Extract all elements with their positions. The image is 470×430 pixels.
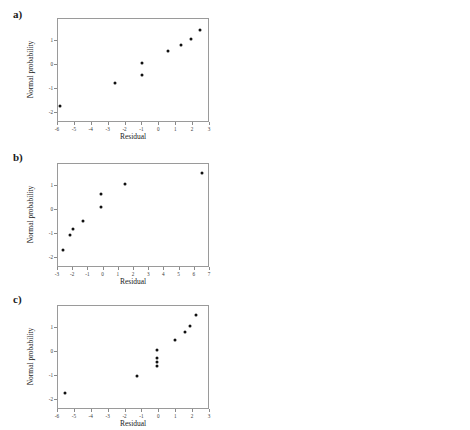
x-tick-label: -1 [85, 271, 89, 277]
x-tick-label: 3 [208, 413, 211, 419]
x-tick [125, 409, 126, 412]
data-point [63, 391, 66, 394]
residual-vs-fitted-plot-c: 01002003004005006003210-1-2-3-4-5-6Fitte… [235, 287, 470, 430]
x-tick-label: -4 [89, 413, 93, 419]
y-tick [54, 375, 57, 376]
x-axis-title: Residual [120, 419, 146, 428]
x-tick-label: -3 [105, 413, 109, 419]
x-tick [133, 267, 134, 270]
x-tick [209, 267, 210, 270]
x-tick-label: 6 [193, 271, 196, 277]
data-point [71, 227, 74, 230]
x-tick [103, 267, 104, 270]
data-point [156, 364, 159, 367]
x-tick-label: 2 [191, 413, 194, 419]
data-point [61, 248, 64, 251]
x-tick [192, 409, 193, 412]
data-point [141, 62, 144, 65]
x-tick-label: -6 [55, 413, 59, 419]
data-point [68, 234, 71, 237]
data-point [81, 219, 84, 222]
residual-vs-fitted-plot-a: 102030405060708090210-1-2-3-4-5-6Fitted … [235, 0, 470, 143]
y-tick-label: 0 [41, 206, 53, 212]
y-axis-title: Normal probability [26, 30, 35, 110]
x-tick [209, 122, 210, 125]
data-point [99, 192, 102, 195]
data-point [184, 331, 187, 334]
normal-probability-plot-c: -6-5-4-3-2-1012310-1-2ResidualNormal pro… [0, 287, 235, 430]
x-tick [57, 409, 58, 412]
y-tick [54, 185, 57, 186]
x-tick-label: 0 [157, 413, 160, 419]
data-point [124, 182, 127, 185]
x-tick [91, 409, 92, 412]
y-tick-label: 1 [41, 324, 53, 330]
x-tick [57, 122, 58, 125]
x-tick [108, 409, 109, 412]
y-tick [54, 327, 57, 328]
data-point [156, 360, 159, 363]
x-tick [141, 122, 142, 125]
x-tick-label: 3 [147, 271, 150, 277]
y-tick-label: -2 [41, 396, 53, 402]
x-tick [74, 409, 75, 412]
data-point [195, 314, 198, 317]
x-axis-title: Residual [120, 132, 146, 141]
y-tick-label: -1 [41, 372, 53, 378]
x-tick [91, 122, 92, 125]
x-tick-label: 1 [117, 271, 120, 277]
x-tick-label: 3 [208, 126, 211, 132]
x-tick-label: 7 [208, 271, 211, 277]
y-axis-title: Normal probability [26, 317, 35, 397]
panel-row-a: a)-6-5-4-3-2-1012310-1-2ResidualNormal p… [0, 0, 470, 143]
y-tick [54, 351, 57, 352]
x-tick [158, 122, 159, 125]
y-tick [54, 88, 57, 89]
data-point [156, 348, 159, 351]
data-point [166, 50, 169, 53]
x-tick-label: -5 [72, 413, 76, 419]
y-tick [54, 64, 57, 65]
x-tick-label: 1 [174, 413, 177, 419]
x-tick [194, 267, 195, 270]
x-tick [175, 122, 176, 125]
panel-row-c: c)-6-5-4-3-2-1012310-1-2ResidualNormal p… [0, 287, 470, 430]
data-point [174, 339, 177, 342]
data-point [188, 324, 191, 327]
data-point [180, 44, 183, 47]
y-axis-title: Normal probability [26, 175, 35, 255]
x-tick [118, 267, 119, 270]
y-tick-label: 1 [41, 37, 53, 43]
x-axis-title: Residual [120, 277, 146, 286]
y-tick [54, 40, 57, 41]
x-tick-label: -3 [105, 126, 109, 132]
x-tick-label: 2 [191, 126, 194, 132]
x-tick-label: 1 [174, 126, 177, 132]
x-tick-label: -3 [55, 271, 59, 277]
residual-diagnostic-figure: a)-6-5-4-3-2-1012310-1-2ResidualNormal p… [0, 0, 470, 430]
y-tick-label: -1 [41, 230, 53, 236]
x-tick [148, 267, 149, 270]
y-tick-label: -1 [41, 85, 53, 91]
x-tick-label: 4 [162, 271, 165, 277]
x-tick [158, 409, 159, 412]
panel-row-b: b)-3-2-10123456710-1-2ResidualNormal pro… [0, 145, 470, 288]
x-tick-label: -4 [89, 126, 93, 132]
normal-probability-plot-a: -6-5-4-3-2-1012310-1-2ResidualNormal pro… [0, 0, 235, 143]
y-tick [54, 233, 57, 234]
data-point [198, 28, 201, 31]
data-point [100, 206, 103, 209]
data-point [141, 73, 144, 76]
y-tick-label: 1 [41, 182, 53, 188]
x-tick [87, 267, 88, 270]
x-tick [163, 267, 164, 270]
plot-area [57, 163, 209, 267]
data-point [136, 374, 139, 377]
data-point [114, 81, 117, 84]
x-tick-label: -5 [72, 126, 76, 132]
x-tick [179, 267, 180, 270]
y-tick-label: -2 [41, 254, 53, 260]
x-tick-label: -2 [70, 271, 74, 277]
x-tick [108, 122, 109, 125]
x-tick [74, 122, 75, 125]
